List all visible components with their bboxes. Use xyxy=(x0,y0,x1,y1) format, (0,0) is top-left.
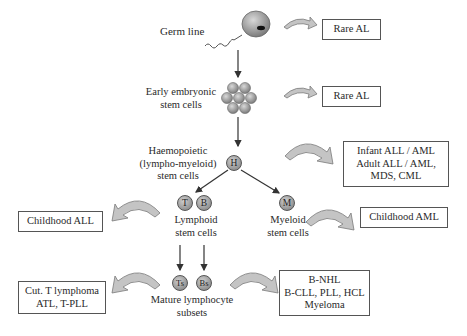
outcome-line: Infant ALL / AML xyxy=(348,145,444,158)
outcome-line: Cut. T lymphoma xyxy=(23,285,101,298)
cell-m-icon: M xyxy=(279,195,295,211)
outcome-line: Myeloma xyxy=(284,299,365,312)
stage-line: Myeloid xyxy=(258,214,318,227)
outcome-box-mature-b: B-NHL B-CLL, PLL, HCL Myeloma xyxy=(279,270,370,316)
stage-germ-line: Germ line xyxy=(160,25,204,38)
outcome-line: Childhood AML xyxy=(365,211,443,224)
outcome-line: B-CLL, PLL, HCL xyxy=(284,287,365,300)
stage-line: Mature lymphocyte xyxy=(140,294,244,307)
stage-lymphoid: Lymphoid stem cells xyxy=(166,214,226,239)
arrow-haemopoietic-to-myeloid xyxy=(241,170,279,193)
stage-mature-lymphocyte: Mature lymphocyte subsets xyxy=(140,294,244,319)
outcome-line: B-NHL xyxy=(284,274,365,287)
stage-line: Haemopoietic xyxy=(138,145,218,158)
cell-ts-icon: Ts xyxy=(172,275,188,291)
outcome-line: Rare AL xyxy=(327,23,376,36)
curved-arrow-lymphoid xyxy=(112,201,160,221)
stage-line: Early embryonic xyxy=(143,86,219,99)
outcome-box-lymphoid: Childhood ALL xyxy=(18,211,103,232)
outcome-box-germ-line: Rare AL xyxy=(322,19,381,40)
stage-line: stem cells xyxy=(143,99,219,112)
cell-b-icon: B xyxy=(196,195,212,211)
curved-arrow-haemopoietic xyxy=(285,144,333,164)
curved-arrow-embryonic xyxy=(284,86,317,98)
germ-cell-icon xyxy=(205,11,270,48)
outcome-box-mature-t: Cut. T lymphoma ATL, T-PLL xyxy=(18,281,106,314)
outcome-box-haemopoietic: Infant ALL / AML Adult ALL / AML, MDS, C… xyxy=(343,141,449,187)
cell-bs-icon: Bs xyxy=(196,275,212,291)
embryonic-cell-cluster-icon xyxy=(222,83,257,114)
stage-early-embryonic: Early embryonic stem cells xyxy=(143,86,219,111)
outcome-line: Childhood ALL xyxy=(23,215,98,228)
outcome-box-myeloid: Childhood AML xyxy=(360,207,448,228)
curved-arrow-germ xyxy=(284,17,317,29)
cell-h-icon: H xyxy=(226,155,242,171)
curved-arrow-mature-b xyxy=(230,273,278,293)
stage-line: Lymphoid xyxy=(166,214,226,227)
cell-t-icon: T xyxy=(177,195,193,211)
outcome-line: Adult ALL / AML, xyxy=(348,158,444,171)
stage-line: stem cells xyxy=(258,227,318,240)
curved-arrow-mature-t xyxy=(112,273,160,293)
outcome-line: MDS, CML xyxy=(348,170,444,183)
stage-line: stem cells xyxy=(138,170,218,183)
stage-myeloid: Myeloid stem cells xyxy=(258,214,318,239)
outcome-line: Rare AL xyxy=(327,90,376,103)
stage-line: stem cells xyxy=(166,227,226,240)
stage-haemopoietic: Haemopoietic (lympho-myeloid) stem cells xyxy=(138,145,218,183)
outcome-box-early-embryonic: Rare AL xyxy=(322,86,381,107)
stage-line: subsets xyxy=(140,307,244,320)
outcome-line: ATL, T-PLL xyxy=(23,298,101,311)
stage-line: (lympho-myeloid) xyxy=(138,158,218,171)
